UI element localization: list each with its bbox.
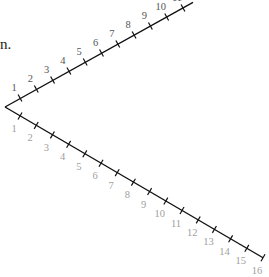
tick-label: 16 [252, 265, 263, 276]
tick-label: 15 [236, 255, 247, 266]
tick-label: 2 [28, 132, 33, 143]
tick-mark [261, 254, 265, 261]
upper-ray-line [5, 2, 193, 107]
tick-label: 7 [109, 28, 114, 39]
angle-diagram: 1234567891011 12345678910111213141516 [0, 0, 269, 277]
tick-label: 5 [77, 46, 82, 57]
tick-label: 14 [219, 246, 230, 257]
tick-label: 9 [142, 10, 147, 21]
tick-label: 8 [125, 189, 130, 200]
lower-ray: 12345678910111213141516 [5, 107, 265, 276]
upper-ray: 1234567891011 [5, 0, 193, 107]
diagram-canvas: n. 1234567891011 12345678910111213141516 [0, 0, 269, 277]
tick-label: 3 [44, 64, 49, 75]
lower-ray-line [5, 107, 263, 258]
tick-label: 9 [141, 199, 146, 210]
tick-label: 10 [155, 1, 166, 12]
tick-label: 13 [203, 236, 214, 247]
tick-label: 11 [171, 218, 181, 229]
tick-label: 4 [60, 55, 66, 66]
tick-label: 6 [92, 170, 97, 181]
tick-label: 6 [93, 37, 98, 48]
tick-label: 10 [155, 208, 166, 219]
tick-label: 5 [76, 161, 81, 172]
tick-label: 12 [187, 227, 198, 238]
tick-label: 1 [11, 82, 16, 93]
tick-label: 4 [60, 151, 66, 162]
tick-label: 8 [125, 19, 130, 30]
tick-label: 2 [28, 73, 33, 84]
tick-label: 3 [44, 142, 49, 153]
tick-label: 1 [11, 123, 16, 134]
tick-label: 11 [172, 0, 182, 3]
tick-label: 7 [109, 180, 114, 191]
